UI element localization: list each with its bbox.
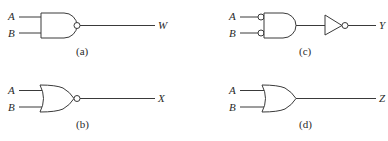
- output-label-X: X: [157, 92, 166, 104]
- input-label-a-A: A: [7, 10, 15, 22]
- circuit-b: A B X (b): [7, 84, 166, 131]
- input-label-a-B: B: [8, 27, 15, 39]
- not-gate-icon: [325, 15, 342, 35]
- circuit-c: A B Y (c): [228, 10, 387, 58]
- output-label-W: W: [158, 19, 168, 31]
- caption-a: (a): [76, 45, 89, 58]
- inverter-bubble-icon: [342, 23, 348, 29]
- input-label-d-A: A: [228, 84, 236, 96]
- or-gate-icon: [262, 85, 296, 112]
- inverter-bubble-icon: [74, 23, 80, 29]
- input-bubble-B-icon: [258, 30, 264, 36]
- inverter-bubble-icon: [74, 96, 80, 102]
- input-bubble-A-icon: [258, 14, 264, 20]
- circuit-a: A B W (a): [7, 10, 168, 58]
- nand-gate-icon: [41, 13, 77, 38]
- caption-c: (c): [299, 45, 312, 58]
- nor-gate-icon: [40, 85, 74, 112]
- input-label-c-A: A: [228, 10, 236, 22]
- caption-d: (d): [299, 118, 312, 131]
- circuit-d: A B Z (d): [228, 84, 386, 131]
- output-label-Z: Z: [379, 92, 386, 104]
- input-label-b-A: A: [7, 84, 15, 96]
- and-gate-icon: [264, 13, 296, 38]
- logic-gates-diagram: A B W (a) A B X (b) A B Y (c): [0, 0, 388, 141]
- caption-b: (b): [76, 118, 89, 131]
- input-label-d-B: B: [229, 101, 236, 113]
- output-label-Y: Y: [379, 19, 387, 31]
- input-label-b-B: B: [8, 101, 15, 113]
- input-label-c-B: B: [229, 27, 236, 39]
